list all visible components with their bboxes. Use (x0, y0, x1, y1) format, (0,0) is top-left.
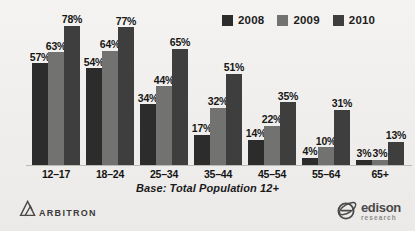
bar-2009-65+[interactable]: 3% (372, 14, 388, 165)
bar-group: 4%10%31% (300, 14, 352, 165)
bar-rect (172, 49, 188, 165)
edison-subtitle: research (361, 215, 401, 222)
bar-value-label: 3% (373, 148, 388, 159)
orbit-e-icon (335, 198, 359, 226)
bar-rect (118, 27, 134, 165)
bar-2010-18–24[interactable]: 77% (118, 14, 134, 165)
x-axis-label: 55–64 (300, 168, 352, 180)
bar-group: 54%64%77% (84, 14, 136, 165)
bar-group: 17%32%51% (192, 14, 244, 165)
bar-value-label: 31% (332, 98, 353, 109)
bar-rect (226, 74, 242, 165)
x-axis-label: 25–34 (138, 168, 190, 180)
bar-rect (318, 147, 334, 165)
bar-2010-45–54[interactable]: 35% (280, 14, 296, 165)
x-axis-label: 12–17 (30, 168, 82, 180)
bar-value-label: 35% (278, 91, 299, 102)
bar-rect (388, 142, 404, 165)
x-axis-label: 65+ (354, 168, 406, 180)
bar-rect (86, 68, 102, 165)
x-axis-label: 18–24 (84, 168, 136, 180)
bar-rect (194, 135, 210, 165)
bar-rect (156, 86, 172, 165)
edison-text: edison research (361, 201, 401, 223)
bar-2008-12–17[interactable]: 57% (32, 14, 48, 165)
bar-2008-65+[interactable]: 3% (356, 14, 372, 165)
bar-rect (140, 104, 156, 165)
bar-rect (64, 26, 80, 165)
bar-2009-35–44[interactable]: 32% (210, 14, 226, 165)
bar-rect (210, 108, 226, 165)
bar-rect (264, 126, 280, 165)
bar-2009-18–24[interactable]: 64% (102, 14, 118, 165)
bar-value-label: 51% (224, 62, 245, 73)
bar-value-label: 77% (116, 16, 137, 27)
bar-group: 57%63%78% (30, 14, 82, 165)
plot-area: 57%63%78%54%64%77%34%44%65%17%32%51%14%2… (30, 14, 408, 165)
bar-2008-18–24[interactable]: 54% (86, 14, 102, 165)
bar-rect (302, 158, 318, 165)
axis-baseline (26, 165, 412, 166)
bar-2010-25–34[interactable]: 65% (172, 14, 188, 165)
x-axis-labels: 12–1718–2425–3435–4445–5455–6465+ (30, 168, 408, 180)
edison-name: edison (361, 201, 401, 214)
bar-2010-35–44[interactable]: 51% (226, 14, 242, 165)
bar-groups: 57%63%78%54%64%77%34%44%65%17%32%51%14%2… (30, 14, 408, 165)
bar-2010-65+[interactable]: 13% (388, 14, 404, 165)
bar-value-label: 65% (170, 37, 191, 48)
bar-value-label: 3% (357, 148, 372, 159)
arbitron-wordmark: ARBITRON (39, 209, 97, 221)
bar-rect (102, 51, 118, 165)
edison-research-logo: edison research (335, 198, 401, 226)
bar-2009-55–64[interactable]: 10% (318, 14, 334, 165)
bar-2010-55–64[interactable]: 31% (334, 14, 350, 165)
delta-triangle-icon (19, 200, 36, 221)
bar-2008-45–54[interactable]: 14% (248, 14, 264, 165)
chart-caption: Base: Total Population 12+ (0, 182, 415, 194)
bar-value-label: 78% (62, 14, 83, 25)
bar-rect (248, 140, 264, 165)
bar-group: 14%22%35% (246, 14, 298, 165)
bar-rect (32, 63, 48, 165)
bar-group: 34%44%65% (138, 14, 190, 165)
bar-2008-35–44[interactable]: 17% (194, 14, 210, 165)
bar-2008-25–34[interactable]: 34% (140, 14, 156, 165)
chart-card: 2008 2009 2010 57%63%78%54%64%77%34%44%6… (0, 0, 415, 231)
bar-2010-12–17[interactable]: 78% (64, 14, 80, 165)
arbitron-logo: ARBITRON (19, 200, 97, 221)
bar-value-label: 13% (386, 130, 407, 141)
bar-rect (334, 110, 350, 165)
bar-rect (280, 102, 296, 165)
x-axis-label: 35–44 (192, 168, 244, 180)
bar-rect (48, 52, 64, 165)
x-axis-label: 45–54 (246, 168, 298, 180)
bar-value-label: 4% (303, 146, 318, 157)
bar-2009-12–17[interactable]: 63% (48, 14, 64, 165)
bar-group: 3%3%13% (354, 14, 406, 165)
